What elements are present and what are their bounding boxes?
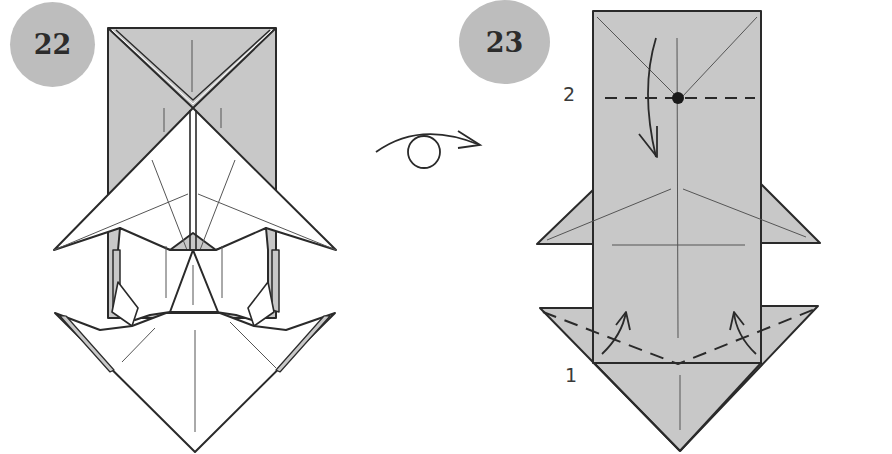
turn-over-icon [376,131,480,168]
left-upper-wing [537,190,593,244]
step-23-model [537,11,820,451]
step-22-model [54,28,336,452]
right-upper-wing [761,184,820,243]
reference-dot [672,92,684,104]
upper-white-kite [54,108,336,250]
